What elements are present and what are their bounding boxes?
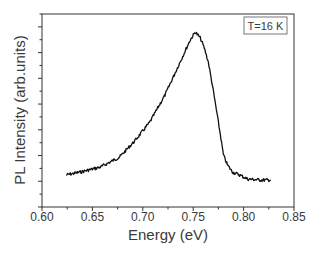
- x-tick-label: 0.85: [282, 210, 306, 224]
- pl-spectrum-line: [66, 32, 271, 181]
- x-tick-label: 0.70: [131, 210, 155, 224]
- x-axis-label: Energy (eV): [128, 226, 208, 243]
- x-tick-label: 0.75: [182, 210, 206, 224]
- legend-text: T=16 K: [248, 20, 284, 32]
- pl-spectrum-chart: 0.60 0.65 0.70 0.75 0.80 0.85 Energy (eV…: [0, 0, 312, 256]
- x-axis-tick-labels: 0.60 0.65 0.70 0.75 0.80 0.85: [30, 210, 306, 224]
- legend: T=16 K: [244, 17, 287, 34]
- x-tick-label: 0.80: [232, 210, 256, 224]
- y-axis-ticks: [38, 14, 42, 207]
- x-tick-label: 0.60: [30, 210, 54, 224]
- x-tick-label: 0.65: [81, 210, 105, 224]
- plot-frame: [42, 14, 294, 207]
- y-axis-label: PL Intensity (arb.units): [11, 35, 28, 185]
